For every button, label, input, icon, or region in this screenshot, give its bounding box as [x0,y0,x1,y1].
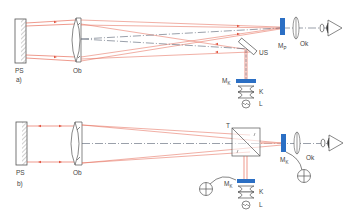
label-ob-b: Ob [73,169,82,176]
svg-text:MP: MP [278,42,286,51]
eyepiece-b [294,132,300,154]
objective-lens-b [71,122,82,165]
objective-lens-a [72,18,81,62]
label-l-a: L [259,100,263,107]
ray-arrows-b [38,125,62,163]
eye-icon [321,135,343,151]
condenser-icon [238,86,254,98]
splitter-cube-t-b [232,128,260,156]
label-us-a: US [259,49,269,56]
reticle-mk-a [236,79,256,83]
rays-vertical-b [244,156,247,179]
panel-label-a: a) [16,76,22,84]
panel-b: T MK Ok MK [16,122,343,209]
plane-mirror-a [15,19,26,63]
crosshair-reticle-icon [200,183,213,196]
rays-mirror-objective-b [27,126,75,162]
optical-diagram: MP Ok US MK K [0,0,364,218]
eyepiece-a [293,17,299,39]
label-k-a: K [259,88,264,95]
plane-mirror-b [16,122,27,165]
label-ps-b: PS [16,169,25,176]
eye-icon [320,20,342,36]
label-k-b: K [259,188,264,195]
svg-text:MK: MK [222,77,230,86]
reticle-mk-collimator-b [237,179,255,183]
crosshair-reticle-icon [298,170,311,183]
panel-a: MP Ok US MK K [15,17,342,108]
lamp-icon [242,100,250,108]
condenser-icon [238,186,254,198]
label-ob-a: Ob [73,67,82,74]
label-ps-a: PS [15,67,24,74]
label-ok-b: Ok [306,154,315,161]
reticle-mp-a [280,18,285,35]
label-ok-a: Ok [300,40,309,47]
svg-text:MK: MK [280,156,288,165]
rays-mirror-objective-a [26,20,76,61]
label-t-b: T [226,122,230,129]
svg-text:MK: MK [224,180,232,189]
reticle-mk-eyepiece-b [281,134,286,152]
ray-arrows-a [54,21,57,58]
label-l-b: L [259,201,263,208]
panel-label-b: b) [17,180,23,188]
lamp-icon [242,201,250,209]
